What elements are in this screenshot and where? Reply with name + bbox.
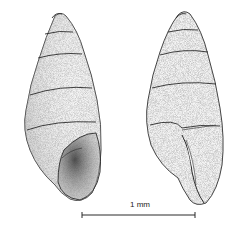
shell-illustration-figure [0,0,250,230]
shell-apertural-view [22,12,104,204]
scale-bar-label: 1 mm [112,200,168,209]
scale-bar [82,212,195,218]
shell-lateral-view [144,10,226,208]
